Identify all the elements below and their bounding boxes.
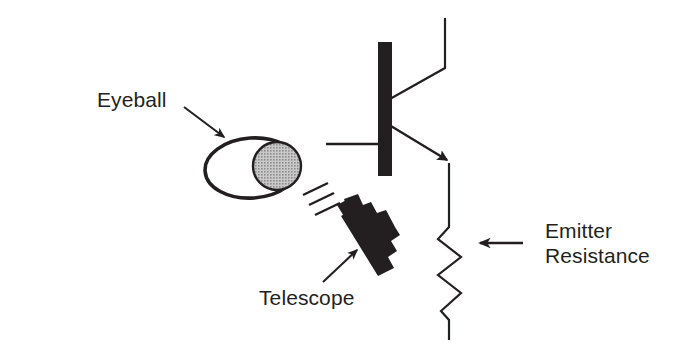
emitter-resistance-label-line2: Resistance [545,244,650,267]
eyeball-iris [253,142,301,190]
light-rays [303,183,340,215]
light-ray [315,203,340,215]
eyeball [203,135,301,201]
eyeball-pointer [184,107,224,137]
telescope-pointer [323,250,357,282]
base-bar [378,42,392,176]
telescope-label: Telescope [259,286,354,309]
emitter-resistor [438,163,461,340]
telescope [337,194,400,276]
light-ray [303,183,328,195]
emitter-resistance-label-line1: Emitter [545,219,612,242]
diagram-canvas: Eyeball Telescope Emitter Resistance [0,0,695,350]
diagram-svg: Eyeball Telescope Emitter Resistance [0,0,695,350]
light-ray [309,193,334,205]
npn-transistor [326,18,447,176]
eyeball-label: Eyeball [97,88,167,111]
resistor-zigzag [438,163,461,340]
